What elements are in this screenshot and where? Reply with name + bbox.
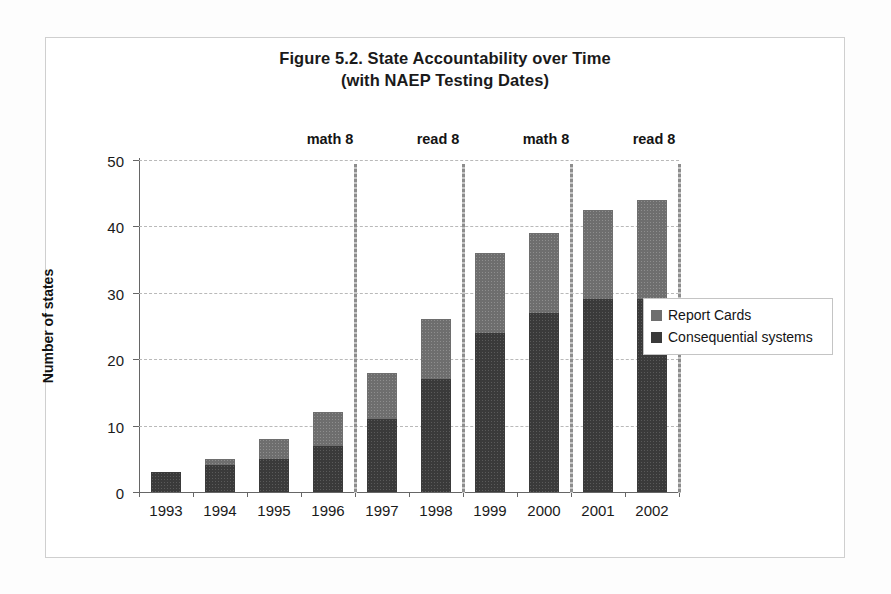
y-axis-tick: 50 bbox=[133, 160, 139, 161]
plot-area: 01020304050 bbox=[139, 160, 679, 492]
bar-segment-consequential-systems[interactable] bbox=[529, 313, 559, 492]
y-axis-tick: 20 bbox=[133, 359, 139, 360]
x-axis-label-1997: 1997 bbox=[365, 502, 398, 519]
bar-segment-report-cards[interactable] bbox=[367, 373, 397, 419]
bar-segment-consequential-systems[interactable] bbox=[421, 379, 451, 492]
y-axis-tick-label: 0 bbox=[116, 485, 124, 502]
bar-1994[interactable] bbox=[205, 459, 235, 492]
naep-marker-label: math 8 bbox=[523, 131, 570, 147]
bar-segment-report-cards[interactable] bbox=[205, 459, 235, 466]
bar-segment-consequential-systems[interactable] bbox=[259, 459, 289, 492]
bar-segment-report-cards[interactable] bbox=[313, 412, 343, 445]
y-axis-tick: 30 bbox=[133, 293, 139, 294]
gridline bbox=[139, 160, 679, 161]
naep-marker-label: math 8 bbox=[307, 131, 354, 147]
bar-1997[interactable] bbox=[367, 372, 397, 492]
bar-segment-report-cards[interactable] bbox=[421, 319, 451, 379]
bar-segment-consequential-systems[interactable] bbox=[313, 446, 343, 492]
x-axis-label-1994: 1994 bbox=[203, 502, 236, 519]
x-axis-label-1993: 1993 bbox=[149, 502, 182, 519]
x-axis-label-2001: 2001 bbox=[581, 502, 614, 519]
scanned-page: Figure 5.2. State Accountability over Ti… bbox=[0, 0, 891, 594]
x-axis-label-2002: 2002 bbox=[635, 502, 668, 519]
legend: Report CardsConsequential systems bbox=[643, 298, 833, 355]
bar-segment-report-cards[interactable] bbox=[529, 233, 559, 313]
naep-marker-label: read 8 bbox=[633, 131, 676, 147]
bar-2000[interactable] bbox=[529, 233, 559, 492]
legend-item-label: Consequential systems bbox=[668, 329, 813, 345]
x-axis-label-2000: 2000 bbox=[527, 502, 560, 519]
x-axis-label-1996: 1996 bbox=[311, 502, 344, 519]
bar-1996[interactable] bbox=[313, 412, 343, 492]
legend-item-label: Report Cards bbox=[668, 307, 751, 323]
x-axis-label-1999: 1999 bbox=[473, 502, 506, 519]
bar-2001[interactable] bbox=[583, 210, 613, 492]
chart-title-line-1: Figure 5.2. State Accountability over Ti… bbox=[279, 49, 611, 67]
y-axis-tick-label: 50 bbox=[107, 153, 124, 170]
legend-swatch-icon bbox=[651, 332, 662, 343]
bar-1999[interactable] bbox=[475, 253, 505, 492]
bar-segment-consequential-systems[interactable] bbox=[151, 472, 181, 492]
y-axis-title: Number of states bbox=[40, 269, 56, 383]
x-axis-tick bbox=[301, 492, 302, 497]
chart-title: Figure 5.2. State Accountability over Ti… bbox=[45, 47, 845, 91]
chart-title-line-2: (with NAEP Testing Dates) bbox=[45, 69, 845, 91]
y-axis-tick-label: 20 bbox=[107, 352, 124, 369]
bar-segment-report-cards[interactable] bbox=[583, 210, 613, 300]
bar-1995[interactable] bbox=[259, 439, 289, 492]
x-axis-tick bbox=[517, 492, 518, 497]
y-axis-tick: 10 bbox=[133, 426, 139, 427]
x-axis-label-1995: 1995 bbox=[257, 502, 290, 519]
bar-1998[interactable] bbox=[421, 319, 451, 492]
legend-item[interactable]: Consequential systems bbox=[651, 326, 825, 348]
y-axis-tick: 40 bbox=[133, 226, 139, 227]
x-axis-tick bbox=[193, 492, 194, 497]
naep-marker-label: read 8 bbox=[417, 131, 460, 147]
bar-segment-consequential-systems[interactable] bbox=[583, 299, 613, 492]
x-axis-tick bbox=[625, 492, 626, 497]
naep-marker-line bbox=[354, 164, 357, 493]
bar-segment-consequential-systems[interactable] bbox=[367, 419, 397, 492]
y-axis-tick-label: 30 bbox=[107, 285, 124, 302]
bar-segment-consequential-systems[interactable] bbox=[205, 465, 235, 492]
x-axis-label-1998: 1998 bbox=[419, 502, 452, 519]
x-axis-tick bbox=[409, 492, 410, 497]
bar-segment-report-cards[interactable] bbox=[475, 253, 505, 333]
legend-swatch-icon bbox=[651, 310, 662, 321]
bar-1993[interactable] bbox=[151, 472, 181, 492]
bar-segment-consequential-systems[interactable] bbox=[475, 333, 505, 492]
legend-item[interactable]: Report Cards bbox=[651, 304, 825, 326]
x-axis-tick bbox=[247, 492, 248, 497]
legend-rows: Report CardsConsequential systems bbox=[651, 304, 825, 348]
x-axis-tick bbox=[139, 492, 140, 497]
bar-segment-report-cards[interactable] bbox=[637, 200, 667, 300]
naep-marker-line bbox=[462, 164, 465, 493]
naep-marker-line bbox=[570, 164, 573, 493]
y-axis-tick-label: 40 bbox=[107, 219, 124, 236]
y-axis-tick-label: 10 bbox=[107, 418, 124, 435]
bar-segment-report-cards[interactable] bbox=[259, 439, 289, 459]
